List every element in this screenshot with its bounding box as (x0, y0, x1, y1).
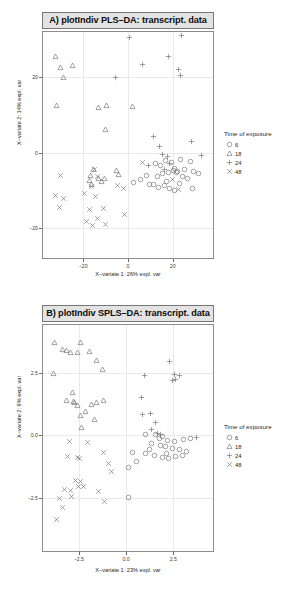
data-point-24 (139, 411, 146, 418)
legend-item-18[interactable]: 18 (224, 149, 272, 158)
legend-item-6[interactable]: 6 (224, 140, 272, 149)
data-point-24 (157, 431, 164, 438)
data-point-6 (125, 464, 132, 471)
data-point-48 (94, 173, 101, 180)
panel-a-y-axis-label: X−variate 2: 14% expl. var (16, 80, 22, 145)
x-tick-label: 0 (127, 263, 130, 269)
data-point-24 (178, 32, 185, 39)
data-point-48 (66, 438, 73, 445)
data-point-48 (105, 460, 112, 467)
legend-item-label: 18 (235, 151, 241, 157)
data-point-6 (151, 452, 158, 459)
data-point-6 (171, 438, 178, 445)
data-point-18 (101, 175, 108, 182)
data-point-6 (125, 494, 132, 501)
chart-panel-a: A) plotIndiv PLS–DA: transcript. data X−… (0, 12, 295, 297)
y-tick-label: 20 (32, 74, 38, 80)
data-point-18 (103, 102, 110, 109)
x-tick-mark (83, 259, 84, 262)
data-point-24 (177, 72, 184, 79)
data-point-18 (129, 103, 136, 110)
data-point-6 (184, 175, 191, 182)
data-point-24 (172, 376, 179, 383)
data-point-48 (57, 172, 64, 179)
data-point-48 (76, 455, 83, 462)
data-point-18 (115, 171, 122, 178)
legend-item-18[interactable]: 18 (224, 442, 272, 451)
legend-item-label: 6 (235, 435, 238, 441)
legend-item-label: 6 (235, 142, 238, 148)
data-point-18 (93, 357, 100, 364)
data-point-48 (68, 493, 75, 500)
legend-item-48[interactable]: 48 (224, 167, 272, 176)
data-point-18 (78, 424, 85, 431)
x-tick-label: 0.0 (123, 556, 130, 562)
data-point-48 (80, 483, 87, 490)
data-point-6 (177, 156, 184, 163)
gridline-vertical (173, 32, 174, 258)
data-point-18 (95, 104, 102, 111)
data-point-6 (195, 170, 202, 177)
gridline-vertical (79, 325, 80, 551)
y-tick-mark (39, 498, 42, 499)
data-point-48 (84, 439, 91, 446)
data-point-6 (189, 185, 196, 192)
data-point-6 (172, 453, 179, 460)
gridline-horizontal (43, 373, 213, 374)
data-point-24 (165, 53, 172, 60)
data-point-18 (57, 64, 64, 71)
data-point-48 (102, 221, 109, 228)
data-point-48 (101, 498, 108, 505)
data-point-18 (100, 397, 107, 404)
data-point-24 (198, 152, 205, 159)
x-tick-mark (128, 259, 129, 262)
data-point-48 (121, 211, 128, 218)
y-tick-label: 2.5 (31, 370, 38, 376)
legend-title: Time of exposure (224, 423, 272, 430)
data-point-18 (51, 339, 58, 346)
data-point-6 (187, 158, 194, 165)
x-tick-mark (79, 552, 80, 555)
data-point-24 (141, 372, 148, 379)
panel-b-legend: Time of exposure 6182448 (224, 423, 272, 469)
data-point-48 (81, 190, 88, 197)
triangle-marker-icon (224, 149, 235, 158)
legend-item-24[interactable]: 24 (224, 451, 272, 460)
data-point-24 (138, 394, 145, 401)
data-point-24 (193, 434, 200, 441)
panel-b-title: B) plotIndiv SPLS–DA: transcript. data (42, 305, 214, 322)
panel-a-title: A) plotIndiv PLS–DA: transcript. data (42, 12, 214, 29)
data-point-6 (129, 449, 136, 456)
data-point-48 (100, 449, 107, 456)
gridline-horizontal (43, 153, 213, 154)
data-point-24 (112, 74, 119, 81)
gridline-vertical (126, 325, 127, 551)
data-point-18 (53, 102, 60, 109)
data-point-24 (161, 166, 168, 173)
chart-panel-b: B) plotIndiv SPLS–DA: transcript. data X… (0, 305, 295, 590)
x-tick-label: 20 (170, 263, 176, 269)
data-point-24 (139, 61, 146, 68)
panel-b-y-axis-label: X−variate 2: 9% expl. var (16, 376, 22, 438)
data-point-48 (52, 192, 59, 199)
panel-b-x-axis-label: X−variate 1: 23% expl. var (42, 567, 214, 573)
legend-item-6[interactable]: 6 (224, 433, 272, 442)
x-tick-label: −20 (79, 263, 88, 269)
cross-marker-icon (224, 167, 235, 176)
plus-marker-icon (224, 451, 235, 460)
data-point-48 (64, 453, 71, 460)
legend-item-24[interactable]: 24 (224, 158, 272, 167)
data-point-24 (150, 133, 157, 140)
data-point-6 (133, 458, 140, 465)
legend-item-48[interactable]: 48 (224, 460, 272, 469)
triangle-marker-icon (224, 442, 235, 451)
data-point-18 (52, 53, 59, 60)
legend-item-label: 24 (235, 453, 241, 459)
gridline-horizontal (43, 77, 213, 78)
y-tick-label: −2.5 (28, 495, 38, 501)
legend-title: Time of exposure (224, 130, 272, 137)
data-point-18 (69, 389, 76, 396)
panel-a-x-axis-label: X−variate 1: 26% expl. var (42, 271, 214, 277)
x-tick-label: −2.5 (74, 556, 84, 562)
x-tick-mark (173, 552, 174, 555)
